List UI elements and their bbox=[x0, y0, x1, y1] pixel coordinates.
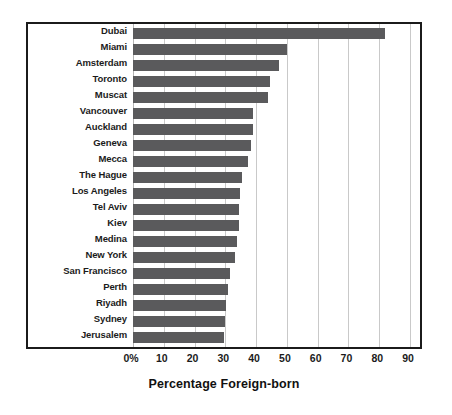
category-label: Auckland bbox=[0, 121, 127, 133]
category-label: Medina bbox=[0, 233, 127, 245]
x-tick-label-80: 80 bbox=[371, 352, 383, 364]
bar-chart: 0%102030405060708090 Percentage Foreign-… bbox=[0, 0, 452, 415]
bar bbox=[133, 92, 268, 103]
category-label: Toronto bbox=[0, 73, 127, 85]
category-label: Los Angeles bbox=[0, 185, 127, 197]
x-tick-label-0: 0% bbox=[123, 352, 138, 364]
x-tick-label-10: 10 bbox=[156, 352, 168, 364]
category-label: Miami bbox=[0, 41, 127, 53]
category-label: Kiev bbox=[0, 217, 127, 229]
x-tick-label-90: 90 bbox=[402, 352, 414, 364]
bar bbox=[133, 252, 235, 263]
x-tick-label-30: 30 bbox=[217, 352, 229, 364]
bar bbox=[133, 44, 287, 55]
bar bbox=[133, 236, 237, 247]
bar bbox=[133, 172, 242, 183]
category-label: The Hague bbox=[0, 169, 127, 181]
bar bbox=[133, 124, 253, 135]
category-label: Amsterdam bbox=[0, 57, 127, 69]
category-label: New York bbox=[0, 249, 127, 261]
category-label: Muscat bbox=[0, 89, 127, 101]
bar bbox=[133, 140, 251, 151]
x-tick-label-60: 60 bbox=[310, 352, 322, 364]
bar bbox=[133, 28, 385, 39]
category-label: Tel Aviv bbox=[0, 201, 127, 213]
bar bbox=[133, 60, 279, 71]
bar bbox=[133, 108, 253, 119]
bar bbox=[133, 284, 228, 295]
x-tick-label-40: 40 bbox=[248, 352, 260, 364]
bar bbox=[133, 76, 270, 87]
x-tick-label-20: 20 bbox=[187, 352, 199, 364]
bar bbox=[133, 156, 248, 167]
category-label: Riyadh bbox=[0, 297, 127, 309]
category-label: San Francisco bbox=[0, 265, 127, 277]
x-tick-label-70: 70 bbox=[341, 352, 353, 364]
category-label: Jerusalem bbox=[0, 329, 127, 341]
x-axis-title: Percentage Foreign-born bbox=[26, 377, 422, 391]
category-label: Sydney bbox=[0, 313, 127, 325]
bar bbox=[133, 188, 240, 199]
bar bbox=[133, 220, 239, 231]
bar bbox=[133, 332, 224, 343]
category-label: Vancouver bbox=[0, 105, 127, 117]
bar bbox=[133, 268, 230, 279]
category-label: Perth bbox=[0, 281, 127, 293]
bar bbox=[133, 316, 225, 327]
bar bbox=[133, 300, 226, 311]
category-label: Dubai bbox=[0, 25, 127, 37]
category-label: Geneva bbox=[0, 137, 127, 149]
category-label: Mecca bbox=[0, 153, 127, 165]
x-tick-label-50: 50 bbox=[279, 352, 291, 364]
bar bbox=[133, 204, 239, 215]
